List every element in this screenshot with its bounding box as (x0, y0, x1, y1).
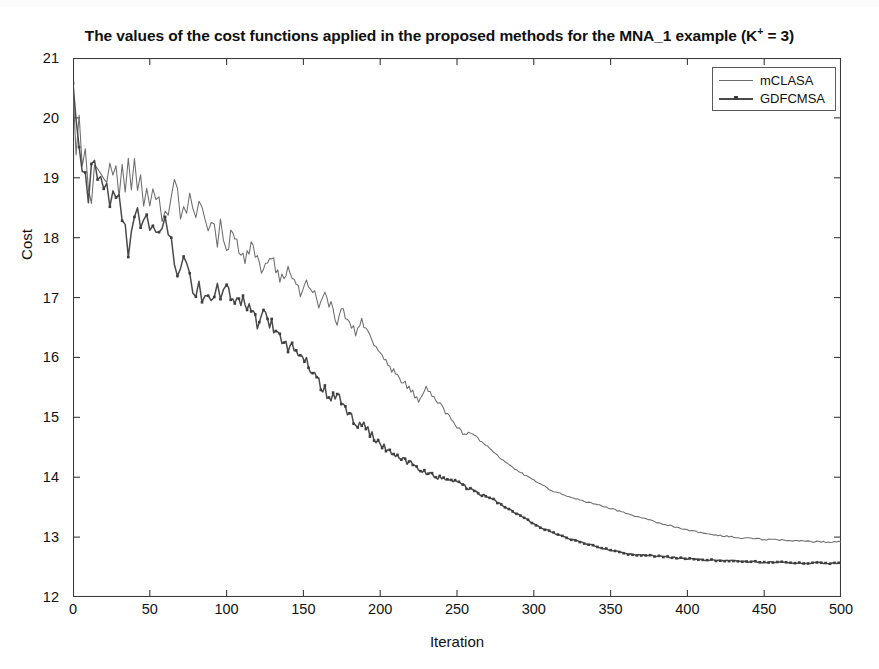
series-marker (728, 560, 731, 563)
series-marker (485, 495, 488, 498)
axis-ticks (73, 58, 841, 597)
series-marker (389, 449, 392, 452)
y-axis-label: Cost (18, 185, 35, 305)
series-marker (543, 528, 546, 531)
series-marker (609, 549, 612, 552)
series-marker (640, 554, 643, 557)
figure-canvas: The values of the cost functions applied… (0, 0, 879, 669)
series-marker (754, 560, 757, 563)
series-marker (519, 514, 522, 517)
series-marker (605, 547, 608, 550)
series-marker (336, 393, 339, 396)
series-marker (78, 146, 81, 149)
series-marker (201, 301, 204, 304)
legend-item-gdfcmsa[interactable]: GDFCMSA (717, 89, 831, 107)
series-marker (789, 561, 792, 564)
plot-svg (73, 58, 841, 597)
series-marker (776, 561, 779, 564)
series-marker (688, 557, 691, 560)
series-marker (461, 483, 464, 486)
series-marker (303, 360, 306, 363)
series-marker (233, 302, 236, 305)
series-marker (631, 553, 634, 556)
series-marker (601, 547, 604, 550)
series-marker (710, 558, 713, 561)
axis-frame (74, 59, 841, 597)
chart-title-main: The values of the cost functions applied… (85, 27, 757, 44)
x-tick-label: 350 (598, 601, 622, 617)
series-marker (477, 492, 480, 495)
series-marker (658, 555, 661, 558)
series-marker (450, 479, 453, 482)
series-marker (552, 531, 555, 534)
y-axis-tick-labels: 12131415161718192021 (0, 58, 66, 597)
x-tick-label: 200 (368, 601, 392, 617)
series-marker (287, 351, 290, 354)
series-marker (662, 556, 665, 559)
series-marker (274, 330, 277, 333)
x-axis-label: Iteration (73, 633, 841, 650)
series-line-gdfcmsa (73, 83, 841, 563)
series-marker (824, 562, 827, 565)
series-marker (442, 476, 445, 479)
series-marker (675, 557, 678, 560)
series-marker (109, 205, 112, 208)
plot-area (73, 58, 841, 597)
series-marker (523, 517, 526, 520)
y-tick-label: 17 (43, 290, 59, 306)
y-tick-label: 15 (43, 409, 59, 425)
series-marker (794, 562, 797, 565)
series-marker (565, 537, 568, 540)
series-marker (352, 422, 355, 425)
series-marker (680, 556, 683, 559)
series-marker (419, 470, 422, 473)
series-marker (415, 465, 418, 468)
y-tick-label: 20 (43, 110, 59, 126)
series-marker (511, 510, 514, 513)
series-marker (500, 503, 503, 506)
series-marker (706, 559, 709, 562)
series-marker (431, 472, 434, 475)
series-marker (807, 562, 810, 565)
series-marker (574, 539, 577, 542)
series-marker (587, 543, 590, 546)
series-marker (719, 559, 722, 562)
series-marker (356, 426, 359, 429)
series-marker (328, 396, 331, 399)
series-marker (759, 561, 762, 564)
legend[interactable]: mCLASA GDFCMSA (712, 67, 836, 111)
series-marker (213, 296, 216, 299)
series-marker (115, 196, 118, 199)
series-marker (283, 341, 286, 344)
series-marker (242, 294, 245, 297)
chart-title-tail: = 3) (763, 27, 794, 44)
series-marker (423, 469, 426, 472)
series-marker (527, 518, 530, 521)
series-marker (627, 553, 630, 556)
series-marker (666, 555, 669, 558)
series-marker (266, 318, 269, 321)
series-marker (90, 163, 93, 166)
y-tick-label: 19 (43, 170, 59, 186)
series-marker (649, 554, 652, 557)
series-marker (299, 354, 302, 357)
series-marker (315, 376, 318, 379)
series-marker (723, 560, 726, 563)
series-marker (750, 560, 753, 563)
legend-swatch-gdfcmsa (717, 92, 755, 104)
series-marker (133, 216, 136, 219)
series-marker (369, 435, 372, 438)
series-marker (96, 178, 99, 181)
series-marker (492, 498, 495, 501)
series-marker (332, 391, 335, 394)
series-marker (596, 546, 599, 549)
series-markers-gdfcmsa (73, 82, 840, 565)
series-marker (381, 447, 384, 450)
legend-item-mclasa[interactable]: mCLASA (717, 71, 831, 89)
series-marker (139, 226, 142, 229)
series-marker (465, 488, 468, 491)
legend-label-mclasa: mCLASA (760, 73, 813, 88)
series-marker (412, 464, 415, 467)
series-marker (737, 560, 740, 563)
series-marker (373, 439, 376, 442)
